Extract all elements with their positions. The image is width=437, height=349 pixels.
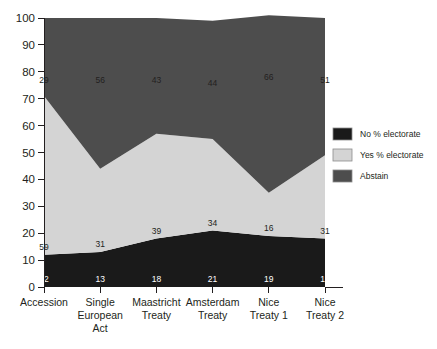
data-label: 44 (208, 78, 218, 88)
x-category-label: Treaty 1 (250, 309, 288, 321)
y-tick-label: 90 (22, 39, 35, 51)
y-tick-label: 30 (22, 200, 35, 212)
legend-label: Abstain (360, 171, 389, 181)
y-tick-label: 100 (16, 12, 35, 24)
data-label: 19 (264, 274, 274, 284)
data-label: 18 (320, 274, 330, 284)
data-label: 16 (264, 223, 274, 233)
y-tick-label: 60 (22, 120, 35, 132)
x-category-label: Amsterdam (186, 296, 240, 308)
data-label: 31 (95, 239, 105, 249)
data-label: 39 (152, 226, 162, 236)
legend-swatch (333, 128, 352, 140)
legend-label: Yes % electorate (360, 150, 424, 160)
data-label: 56 (95, 75, 105, 85)
data-label: 13 (95, 274, 105, 284)
x-category-label: Treaty (198, 309, 228, 321)
y-tick-label: 40 (22, 173, 35, 185)
data-label: 21 (208, 274, 218, 284)
x-category-label: European (77, 309, 123, 321)
chart-figure: 1213182119185931393416312956434466511009… (0, 0, 437, 349)
x-category-label: Nice (314, 296, 335, 308)
x-category-label: Maastricht (132, 296, 181, 308)
x-category-label: Nice (258, 296, 279, 308)
y-tick-label: 0 (29, 281, 35, 293)
y-tick-label: 50 (22, 147, 35, 159)
legend-swatch (333, 170, 352, 182)
x-category-label: Treaty 2 (306, 309, 344, 321)
data-label: 34 (208, 218, 218, 228)
y-tick-label: 80 (22, 66, 35, 78)
data-label: 51 (320, 75, 330, 85)
y-tick-label: 70 (22, 93, 35, 105)
x-category-label: Treaty (142, 309, 172, 321)
data-label: 31 (320, 226, 330, 236)
x-category-label: Single (86, 296, 115, 308)
data-label: 18 (152, 274, 162, 284)
y-tick-label: 10 (22, 254, 35, 266)
x-category-label: Act (93, 322, 108, 334)
legend-label: No % electorate (360, 129, 421, 139)
stacked-area-chart: 1213182119185931393416312956434466511009… (0, 0, 437, 349)
x-category-label: Accession (20, 296, 68, 308)
data-label: 43 (152, 75, 162, 85)
legend-swatch (333, 149, 352, 161)
y-tick-label: 20 (22, 227, 35, 239)
data-label: 66 (264, 72, 274, 82)
